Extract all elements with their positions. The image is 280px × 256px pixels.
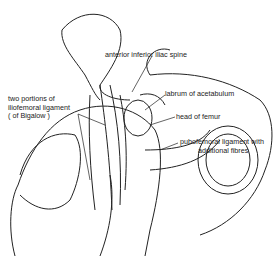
label-line: ( of Bigalow ) [8,112,70,121]
label-pubofemoral-ligament: pubofemoral ligament with additional fib… [180,138,264,155]
anatomy-drawing [0,0,280,256]
label-labrum-of-acetabulum: labrum of acetabulum [165,90,234,99]
label-head-of-femur: head of femur [176,113,220,122]
hip-ligament-diagram: anterior inferior iliac spine labrum of … [0,0,280,256]
label-line: additional fibres [180,147,264,156]
label-anterior-inferior-iliac-spine: anterior inferior iliac spine [105,51,187,60]
label-iliofemoral-ligament: two portions of iliofemoral ligament ( o… [8,95,70,121]
